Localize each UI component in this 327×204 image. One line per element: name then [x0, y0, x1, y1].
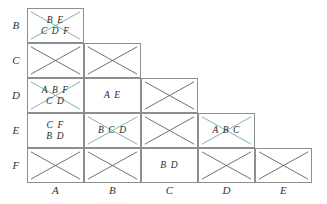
cell-text-line: B D	[46, 131, 64, 142]
col-label-c: C	[141, 184, 198, 196]
matrix-cell-fe[interactable]	[255, 148, 312, 183]
matrix-cell-cb[interactable]	[84, 43, 141, 78]
cell-text: A E	[85, 79, 140, 112]
cell-text-line: A B F	[42, 85, 70, 96]
cell-text-line: C D	[46, 96, 65, 107]
matrix-cell-ea[interactable]: C FB D	[27, 113, 84, 148]
cross-out-icon	[256, 149, 311, 182]
matrix-cell-ca[interactable]	[27, 43, 84, 78]
cell-text-line: A B C	[212, 125, 240, 136]
matrix-cell-da[interactable]: A B FC D	[27, 78, 84, 113]
cell-text-line: C F	[47, 120, 65, 131]
col-label-b: B	[84, 184, 141, 196]
matrix-cell-fd[interactable]	[198, 148, 255, 183]
cell-text-line: B E	[47, 15, 64, 26]
row-label-b: B	[8, 19, 24, 31]
cell-text-line: A E	[104, 90, 121, 101]
cross-out-icon	[142, 114, 197, 147]
matrix-cell-fc[interactable]: B D	[141, 148, 198, 183]
cell-text: A B FC D	[28, 79, 83, 112]
triangular-matrix-figure: B EC D FA B FC DA EC FB DB C DA B CB D B…	[0, 0, 327, 204]
cross-out-icon	[28, 44, 83, 77]
cross-out-icon	[85, 44, 140, 77]
row-label-e: E	[8, 124, 24, 136]
col-label-a: A	[27, 184, 84, 196]
cross-out-icon	[199, 149, 254, 182]
cross-out-icon	[142, 79, 197, 112]
matrix-cell-ed[interactable]: A B C	[198, 113, 255, 148]
cell-text: B C D	[85, 114, 140, 147]
matrix-cell-ec[interactable]	[141, 113, 198, 148]
cell-text-line: B C D	[98, 125, 127, 136]
cross-out-icon	[28, 149, 83, 182]
row-label-c: C	[8, 54, 24, 66]
cell-text: B D	[142, 149, 197, 182]
matrix-cell-fb[interactable]	[84, 148, 141, 183]
matrix-cell-dc[interactable]	[141, 78, 198, 113]
col-label-e: E	[255, 184, 312, 196]
cell-text-line: C D F	[41, 26, 70, 37]
matrix-cell-db[interactable]: A E	[84, 78, 141, 113]
matrix-cell-fa[interactable]	[27, 148, 84, 183]
matrix-cell-ba[interactable]: B EC D F	[27, 8, 84, 43]
cell-text: C FB D	[28, 114, 83, 147]
row-label-d: D	[8, 89, 24, 101]
cross-out-icon	[85, 149, 140, 182]
cell-text-line: B D	[160, 160, 178, 171]
row-label-f: F	[8, 159, 24, 171]
matrix-cell-eb[interactable]: B C D	[84, 113, 141, 148]
cell-text: B EC D F	[28, 9, 83, 42]
col-label-d: D	[198, 184, 255, 196]
cell-text: A B C	[199, 114, 254, 147]
